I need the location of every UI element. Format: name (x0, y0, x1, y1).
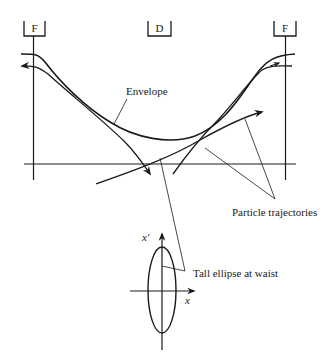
magnet-label-d: D (156, 22, 164, 34)
defocusing-magnet: D (148, 21, 171, 36)
x-prime-axis-label: x′ (141, 231, 150, 243)
envelope-leader (114, 99, 127, 124)
particle-trajectory-2 (96, 112, 262, 184)
trajectories-leader-2 (205, 148, 275, 199)
envelope-label: Envelope (126, 85, 168, 97)
particle-trajectory-3 (173, 66, 292, 174)
phase-space-plot: x′ x (130, 231, 194, 350)
particle-trajectories-label: Particle trajectories (232, 206, 317, 218)
focusing-magnet-right: F (111, 21, 296, 36)
magnet-label-f-right: F (282, 22, 288, 34)
trajectories-leader-1 (245, 119, 275, 199)
x-axis-label: x (184, 294, 190, 306)
magnet-label-f-left: F (31, 22, 37, 34)
beam-envelope-diagram: F D F Envelope (0, 0, 326, 364)
ellipse-leader-1 (160, 158, 185, 271)
particle-trajectory-1 (22, 66, 150, 174)
tall-ellipse-label: Tall ellipse at waist (193, 267, 278, 279)
focusing-magnet-left: F (24, 21, 45, 36)
